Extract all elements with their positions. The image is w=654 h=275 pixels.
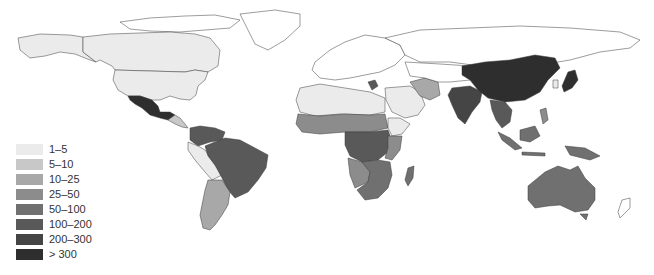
legend-row: 1–5 [16, 142, 92, 157]
legend-label: 10–25 [49, 174, 80, 185]
legend-swatch [16, 159, 43, 170]
legend-label: 100–200 [49, 219, 92, 230]
legend-swatch [16, 219, 43, 230]
legend-label: > 300 [49, 249, 77, 260]
legend-row: 50–100 [16, 202, 92, 217]
legend-row: 5–10 [16, 157, 92, 172]
region-indonesia-sumatra [498, 132, 522, 150]
legend-row: 25–50 [16, 187, 92, 202]
region-greece [368, 80, 378, 90]
legend-swatch [16, 189, 43, 200]
legend-label: 200–300 [49, 234, 92, 245]
region-philippines [540, 108, 548, 124]
region-korea [553, 80, 558, 88]
region-southeast-asia-mainland [490, 100, 512, 128]
legend-row: 200–300 [16, 232, 92, 247]
region-argentina [200, 180, 230, 230]
legend-row: 10–25 [16, 172, 92, 187]
legend-swatch [16, 234, 43, 245]
region-india [448, 86, 482, 124]
region-new-guinea [565, 146, 600, 160]
region-indonesia-java [522, 152, 545, 156]
legend-swatch [16, 144, 43, 155]
region-greenland [240, 10, 300, 50]
region-europe [312, 35, 405, 80]
legend-swatch [16, 249, 43, 260]
legend-label: 1–5 [49, 144, 67, 155]
region-sahel [296, 114, 388, 134]
region-australia [528, 166, 595, 212]
legend-row: 100–200 [16, 217, 92, 232]
legend-swatch [16, 174, 43, 185]
region-horn-africa [388, 118, 410, 136]
region-usa [113, 70, 208, 100]
region-canada [83, 32, 220, 72]
region-indonesia-borneo [520, 126, 540, 142]
world-choropleth-map [0, 0, 654, 275]
legend-label: 25–50 [49, 189, 80, 200]
region-mexico [128, 96, 175, 120]
region-tasmania [580, 214, 588, 220]
region-central-africa [345, 130, 392, 162]
legend-row: > 300 [16, 247, 92, 262]
region-new-zealand [618, 198, 630, 218]
legend: 1–5 5–10 10–25 25–50 50–100 100–200 200–… [16, 142, 92, 262]
legend-swatch [16, 204, 43, 215]
region-canada-arctic [120, 15, 240, 32]
region-japan [562, 70, 578, 92]
legend-label: 50–100 [49, 204, 86, 215]
region-madagascar [405, 166, 414, 186]
legend-label: 5–10 [49, 159, 73, 170]
